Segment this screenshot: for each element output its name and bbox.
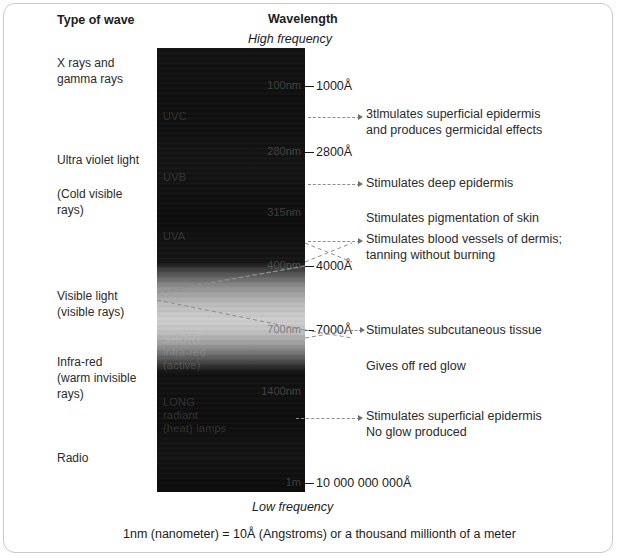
note-no-glow-produced: Stimulates superficial epidermis No glow… [366, 408, 542, 440]
column-header-type-of-wave: Type of wave [57, 13, 135, 27]
tick-7000a [305, 330, 314, 331]
wave-type-visible-light: Visible light (visible rays) [57, 288, 124, 320]
note-pigmentation: Stimulates pigmentation of skin [366, 210, 539, 226]
figure-caption: 1nm (nanometer) = 10Å (Angstroms) or a t… [123, 527, 516, 541]
wavelength-value-1000a: 1000Å [316, 79, 352, 93]
arrow-subcutaneous [360, 327, 365, 333]
tick-1000a [305, 86, 314, 87]
wave-type-x-rays: X rays and gamma rays [57, 55, 123, 87]
low-frequency-label: Low frequency [252, 500, 333, 514]
note-blood-vessels: Stimulates blood vessels of dermis; tann… [366, 231, 562, 263]
tick-10e10a [305, 483, 314, 484]
band-label-uvb: UVB [163, 171, 186, 184]
tick-4000a [305, 266, 314, 267]
nm-mark-700nm: 700nm [267, 323, 301, 335]
wave-type-radio: Radio [57, 450, 88, 466]
wave-type-ultra-violet: Ultra violet light [57, 152, 139, 168]
spectrum-figure: Type of wave Wavelength High frequency L… [0, 0, 618, 558]
high-frequency-label: High frequency [248, 32, 332, 46]
note-subcutaneous-tissue: Stimulates subcutaneous tissue [366, 322, 542, 338]
leader-line-deep-epidermis [308, 184, 360, 185]
nm-mark-400nm: 400nm [267, 259, 301, 271]
wavelength-value-4000a: 4000Å [316, 259, 352, 273]
note-red-glow: Gives off red glow [366, 358, 466, 374]
nm-mark-315nm: 315nm [267, 206, 301, 218]
nm-mark-1400nm: 1400nm [261, 385, 301, 397]
note-germicidal-effects: 3tlmulates superficial epidermis and pro… [366, 106, 542, 138]
arrow-germicidal [358, 114, 363, 120]
leader-line-no-glow [296, 418, 360, 419]
nm-mark-100nm: 100nm [267, 79, 301, 91]
band-label-long-radiant: LONG radiant (heat) lamps [163, 396, 227, 435]
wave-type-cold-visible-rays: (Cold visible rays) [57, 186, 122, 218]
note-deep-epidermis: Stimulates deep epidermis [366, 175, 513, 191]
band-label-short-infra-red: SHORT infra-red (active) [163, 333, 206, 372]
leader-line-blood-vessels [308, 241, 360, 242]
band-label-uva: UVA [163, 230, 185, 243]
wave-type-infra-red: Infra-red (warm invisible rays) [57, 354, 136, 402]
wavelength-value-10e10a: 10 000 000 000Å [316, 476, 411, 490]
arrow-blood-vessels [358, 238, 363, 244]
nm-mark-280nm: 280nm [267, 145, 301, 157]
leader-line-germicidal [308, 117, 360, 118]
arrow-deep-epidermis [358, 181, 363, 187]
column-header-wavelength: Wavelength [268, 12, 338, 26]
wavelength-value-2800a: 2800Å [316, 145, 352, 159]
band-label-uvc: UVC [163, 110, 187, 123]
spectrum-bar: UVC UVB UVA SHORT infra-red (active) LON… [157, 48, 305, 492]
arrow-no-glow [358, 415, 363, 421]
tick-2800a [305, 152, 314, 153]
nm-mark-1m: 1m [286, 476, 301, 488]
